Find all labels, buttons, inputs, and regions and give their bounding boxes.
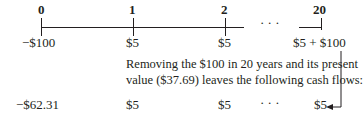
connector-arrow-icon (0, 0, 359, 118)
